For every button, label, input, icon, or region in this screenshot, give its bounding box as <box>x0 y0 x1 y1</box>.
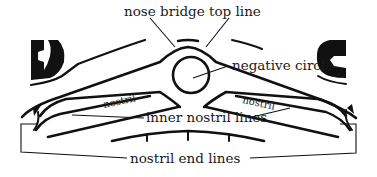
label-inner-nostril-lines: inner nostril lines <box>146 109 267 125</box>
base-curve <box>112 131 264 141</box>
leader-circle <box>193 66 228 78</box>
bridge-dash <box>178 40 198 41</box>
leader-bridge-right <box>206 18 229 47</box>
left-eye-glyph <box>31 40 145 85</box>
label-negative-circle: negative circle <box>232 57 333 73</box>
negative-circle-shape <box>173 57 209 93</box>
label-nostril-end-lines: nostril end lines <box>130 150 240 166</box>
leader-bridge-left <box>150 18 175 47</box>
nose-diagram: nose bridge top line negative circle inn… <box>0 0 377 177</box>
label-nose-bridge-top-line: nose bridge top line <box>124 3 261 19</box>
